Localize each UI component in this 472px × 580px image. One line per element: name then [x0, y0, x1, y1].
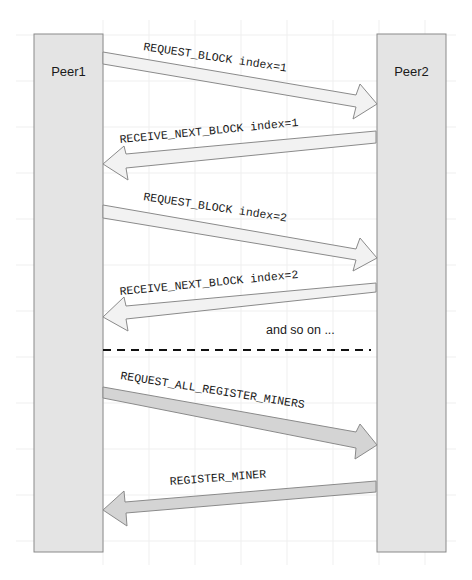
lifeline-peer1: Peer1	[34, 34, 103, 552]
message-arrow-receive-next-block-1: RECEIVE_NEXT_BLOCK index=1	[103, 116, 376, 180]
participant-label-peer2: Peer2	[394, 64, 429, 79]
message-arrow-register-miner: REGISTER_MINER	[103, 467, 376, 526]
arrow-left-icon	[103, 481, 376, 526]
message-arrow-request-block-1: REQUEST_BLOCK index=1	[103, 40, 377, 119]
message-label: REGISTER_MINER	[169, 467, 266, 488]
participant-label-peer1: Peer1	[51, 64, 86, 79]
sequence-diagram: Peer1 Peer2 REQUEST_BLOCK index=1 RECEIV…	[0, 0, 472, 580]
continuation-note: and so on ...	[266, 323, 335, 337]
message-arrow-receive-next-block-2: RECEIVE_NEXT_BLOCK index=2	[103, 268, 376, 331]
lifeline-peer2: Peer2	[377, 34, 446, 552]
message-arrow-request-block-2: REQUEST_BLOCK index=2	[103, 190, 377, 271]
message-arrow-request-all-register-miners: REQUEST_ALL_REGISTER_MINERS	[103, 369, 377, 459]
